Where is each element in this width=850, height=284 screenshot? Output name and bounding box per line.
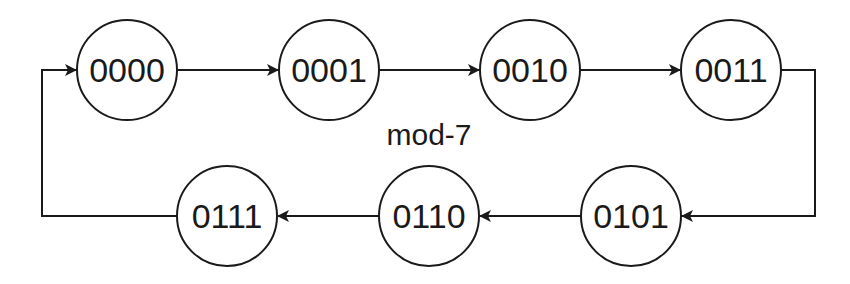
- state-0110: 0110: [379, 166, 479, 266]
- diagram-svg: 0000 0001 0010 0011 0101 0110 0111 mod-7: [0, 0, 850, 284]
- state-label: 0011: [694, 51, 767, 89]
- state-0010: 0010: [480, 20, 580, 120]
- state-diagram: 0000 0001 0010 0011 0101 0110 0111 mod-7: [0, 0, 850, 284]
- state-0101: 0101: [581, 166, 681, 266]
- state-label: 0101: [593, 197, 669, 235]
- state-0111: 0111: [177, 166, 277, 266]
- state-label: 0010: [492, 51, 568, 89]
- state-label: 0111: [192, 197, 263, 235]
- state-label: 0000: [89, 51, 165, 89]
- state-0011: 0011: [681, 20, 781, 120]
- state-label: 0110: [392, 197, 465, 235]
- state-0001: 0001: [279, 20, 379, 120]
- state-label: 0001: [291, 51, 367, 89]
- state-0000: 0000: [77, 20, 177, 120]
- diagram-title: mod-7: [386, 118, 471, 151]
